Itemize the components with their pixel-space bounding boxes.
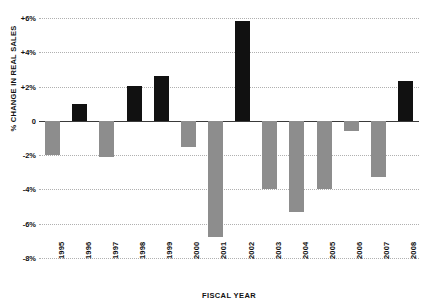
x-axis-tick-labels: 1995199619971998199920002001200220032004… [39, 258, 419, 292]
x-axis-tick-label: 2006 [355, 242, 364, 260]
x-axis-tick-2008: 2008 [398, 258, 413, 292]
bar-2004 [289, 121, 304, 212]
x-axis-tick-label: 2008 [409, 242, 418, 260]
y-axis-tick-label: +6% [2, 14, 36, 23]
bar-2008 [398, 81, 413, 120]
bar-1995 [45, 121, 60, 155]
y-axis-tick-label: 0 [2, 117, 36, 126]
x-axis-tick-2002: 2002 [235, 258, 250, 292]
bar-2003 [262, 121, 277, 190]
x-axis-tick-label: 2004 [301, 242, 310, 260]
bar-2007 [371, 121, 386, 178]
x-axis-tick-label: 1995 [57, 242, 66, 260]
x-axis-tick-label: 2000 [192, 242, 201, 260]
x-axis-tick-1997: 1997 [99, 258, 114, 292]
x-axis-title: FISCAL YEAR [39, 291, 419, 300]
x-axis-tick-label: 1996 [84, 242, 93, 260]
x-axis-tick-2001: 2001 [208, 258, 223, 292]
bar-2000 [181, 121, 196, 148]
bar-1996 [72, 104, 87, 121]
x-axis-tick-label: 2002 [247, 242, 256, 260]
x-axis-tick-label: 2007 [382, 242, 391, 260]
x-axis-tick-label: 1998 [138, 242, 147, 260]
y-axis-tick-label: +4% [2, 48, 36, 57]
x-axis-tick-label: 2003 [274, 242, 283, 260]
bars-series [39, 18, 419, 258]
x-axis-tick-1996: 1996 [72, 258, 87, 292]
bar-2002 [235, 21, 250, 120]
x-axis-tick-label: 2001 [219, 242, 228, 260]
bar-1998 [127, 86, 142, 121]
x-axis-tick-2003: 2003 [262, 258, 277, 292]
x-axis-tick-1995: 1995 [45, 258, 60, 292]
bar-2005 [317, 121, 332, 190]
x-axis-tick-2004: 2004 [289, 258, 304, 292]
bar-2001 [208, 121, 223, 238]
x-axis-tick-label: 2005 [328, 242, 337, 260]
y-axis-tick-labels: +6%+4%+2%0-2%-4%-6%-8% [0, 18, 36, 258]
y-axis-tick-label: -4% [2, 185, 36, 194]
bar-chart: % CHANGE IN REAL SALES +6%+4%+2%0-2%-4%-… [0, 0, 425, 305]
x-axis-tick-2007: 2007 [371, 258, 386, 292]
x-axis-tick-1998: 1998 [127, 258, 142, 292]
y-axis-tick-label: -6% [2, 220, 36, 229]
x-axis-tick-label: 1999 [165, 242, 174, 260]
chart-title [0, 0, 425, 2]
x-axis-tick-label: 1997 [111, 242, 120, 260]
x-axis-tick-2006: 2006 [344, 258, 359, 292]
x-axis-tick-2005: 2005 [317, 258, 332, 292]
y-axis-tick-label: -8% [2, 254, 36, 263]
y-axis-tick-label: -2% [2, 151, 36, 160]
x-axis-tick-1999: 1999 [154, 258, 169, 292]
bar-2006 [344, 121, 359, 131]
bar-1997 [99, 121, 114, 157]
x-axis-tick-2000: 2000 [181, 258, 196, 292]
plot-area [39, 18, 419, 258]
y-axis-tick-label: +2% [2, 83, 36, 92]
bar-1999 [154, 76, 169, 121]
